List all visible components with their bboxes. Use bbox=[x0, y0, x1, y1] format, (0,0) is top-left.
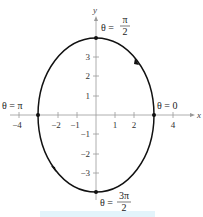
caption-bar bbox=[40, 211, 155, 217]
svg-text:−1: −1 bbox=[70, 120, 80, 130]
point-theta-3-half-pi bbox=[94, 190, 98, 194]
svg-text:2: 2 bbox=[86, 71, 91, 81]
label-theta-0: θ = 0 bbox=[157, 100, 177, 111]
point-theta-pi bbox=[36, 113, 40, 117]
svg-text:θ =: θ = bbox=[100, 197, 113, 208]
svg-text:π: π bbox=[122, 14, 127, 25]
x-axis-label: x bbox=[196, 110, 201, 120]
svg-text:1: 1 bbox=[113, 120, 118, 130]
point-theta-half-pi bbox=[94, 36, 98, 40]
y-axis-arrow-icon bbox=[94, 16, 98, 21]
svg-text:−2: −2 bbox=[80, 149, 90, 159]
svg-text:3π: 3π bbox=[119, 190, 129, 201]
label-theta-pi: θ = π bbox=[2, 100, 22, 111]
svg-text:2: 2 bbox=[132, 120, 137, 130]
svg-text:θ =: θ = bbox=[101, 22, 114, 33]
svg-text:−2: −2 bbox=[51, 120, 61, 130]
x-axis-arrow-icon bbox=[190, 113, 195, 117]
svg-text:4: 4 bbox=[171, 120, 176, 130]
svg-text:−4: −4 bbox=[12, 120, 22, 130]
svg-text:1: 1 bbox=[86, 91, 91, 101]
label-theta-3-half-pi: θ = 3π 2 bbox=[100, 190, 131, 213]
svg-text:−1: −1 bbox=[80, 129, 90, 139]
svg-text:−3: −3 bbox=[80, 168, 90, 178]
svg-text:3: 3 bbox=[86, 52, 91, 62]
point-theta-0 bbox=[152, 113, 156, 117]
direction-arrow-icon bbox=[51, 166, 56, 172]
label-theta-half-pi: θ = π 2 bbox=[101, 14, 130, 37]
svg-text:2: 2 bbox=[123, 26, 128, 37]
y-axis-label: y bbox=[92, 5, 97, 15]
x-tick-labels: −4 −2 −1 1 2 4 bbox=[12, 120, 176, 130]
polar-graph: x y −4 −2 −1 1 2 4 3 2 1 −1 −2 −3 bbox=[0, 0, 203, 217]
